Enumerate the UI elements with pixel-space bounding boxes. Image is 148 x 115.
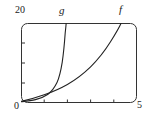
curve-f: [21, 23, 121, 101]
x-axis-max-label: 5: [137, 100, 142, 110]
x-axis-min-label: 0: [14, 101, 19, 111]
exponential-comparison-chart: 20 0 5 g f: [0, 0, 148, 115]
y-axis-max-label: 20: [15, 5, 25, 15]
curve-label-f: f: [119, 4, 122, 15]
y-axis-ticks: [22, 43, 26, 83]
plot-frame: [22, 24, 137, 103]
curve-label-g: g: [59, 5, 65, 16]
curve-g: [21, 23, 66, 102]
plot-canvas: [0, 0, 148, 115]
